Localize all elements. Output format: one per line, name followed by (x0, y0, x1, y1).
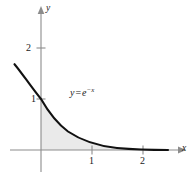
equation-exponent: −x (87, 86, 95, 93)
x-tick-label-1: 1 (89, 156, 94, 166)
exponential-curve (15, 64, 169, 150)
y-axis-label: y (46, 4, 50, 14)
plot-canvas (0, 0, 196, 175)
y-tick-label-2: 2 (26, 43, 31, 53)
x-axis-label: x (182, 144, 186, 154)
exponential-decay-area-figure: 2 1 1 2 y x y=e−x (0, 0, 196, 175)
y-axis-arrowhead (38, 6, 45, 14)
x-tick-label-2: 2 (140, 156, 145, 166)
equation-equals-sign: = (74, 87, 82, 98)
curve-equation-label: y=e−x (70, 88, 94, 98)
y-tick-label-1: 1 (31, 94, 36, 104)
